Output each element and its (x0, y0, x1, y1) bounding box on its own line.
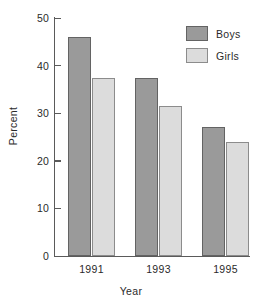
legend-item-girls: Girls (186, 48, 260, 63)
legend-swatch-boys (186, 26, 208, 41)
bar-girls-1991 (92, 78, 115, 257)
bar-girls-1995 (226, 142, 249, 256)
legend-item-boys: Boys (186, 26, 260, 41)
x-tick-label-1991: 1991 (62, 263, 122, 275)
x-axis-line (54, 256, 250, 257)
y-tick-label: 0 (9, 251, 49, 262)
y-tick-mark (55, 18, 61, 19)
y-tick-mark (55, 208, 61, 209)
bar-boys-1991 (68, 37, 91, 256)
y-tick-label: 10 (9, 203, 49, 214)
y-tick-mark (55, 65, 61, 66)
y-tick-label: 50 (9, 13, 49, 24)
y-axis-title: Percent (7, 91, 19, 161)
x-tick-label-1995: 1995 (196, 263, 256, 275)
y-tick-mark (55, 160, 61, 161)
legend: BoysGirls (186, 26, 260, 70)
legend-label-boys: Boys (216, 28, 241, 40)
legend-label-girls: Girls (216, 50, 239, 62)
x-tick-label-1993: 1993 (129, 263, 189, 275)
bar-girls-1993 (159, 106, 182, 256)
y-tick-label: 40 (9, 61, 49, 72)
y-tick-mark (55, 256, 61, 257)
y-axis-line (54, 17, 55, 257)
x-axis-title: Year (0, 285, 262, 297)
bar-chart: 01020304050 199119931995 Percent Year Bo… (0, 0, 262, 304)
bar-boys-1993 (135, 78, 158, 256)
y-tick-mark (55, 113, 61, 114)
legend-swatch-girls (186, 48, 208, 63)
bar-boys-1995 (202, 127, 225, 256)
